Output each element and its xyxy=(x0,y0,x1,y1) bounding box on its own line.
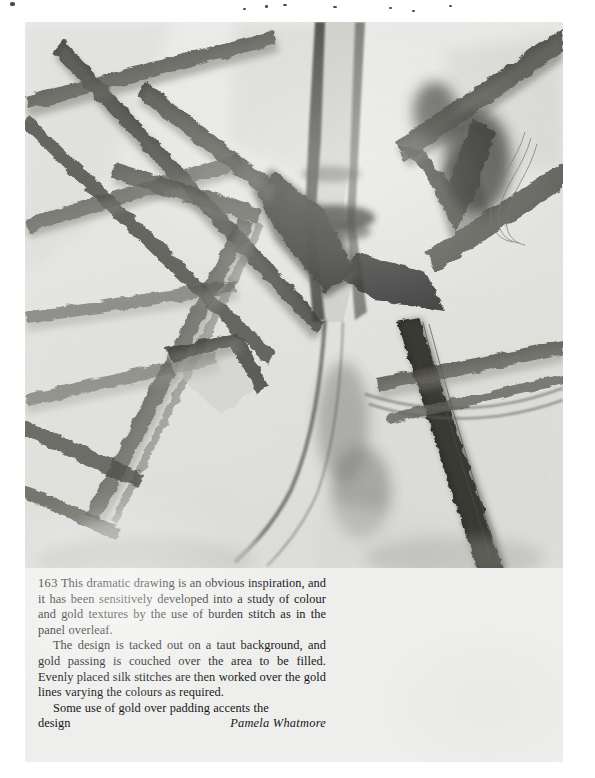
scan-dust-speck xyxy=(412,10,415,12)
scan-dust-speck xyxy=(265,5,268,8)
caption-paragraph-1-text: This dramatic drawing is an obvious insp… xyxy=(38,576,326,637)
scanned-book-page: 163 This dramatic drawing is an obvious … xyxy=(0,0,595,778)
scan-dust-speck xyxy=(243,8,246,10)
figure-caption: 163 This dramatic drawing is an obvious … xyxy=(38,576,326,732)
caption-paragraph-3: Some use of gold over padding accents th… xyxy=(38,701,326,717)
charcoal-drawing-svg xyxy=(25,22,563,568)
scan-dust-speck xyxy=(283,4,287,6)
caption-paragraph-2: The design is tacked out on a taut backg… xyxy=(38,638,326,700)
caption-last-line: design Pamela Whatmore xyxy=(38,716,326,732)
scan-dust-speck xyxy=(10,2,15,6)
scan-dust-speck xyxy=(333,6,337,8)
caption-attribution: Pamela Whatmore xyxy=(230,716,326,732)
caption-last-word: design xyxy=(38,716,70,732)
figure-number: 163 xyxy=(38,576,58,590)
page-sheet: 163 This dramatic drawing is an obvious … xyxy=(25,22,563,762)
figure-charcoal-drawing xyxy=(25,22,563,568)
scan-dust-speck xyxy=(389,7,392,9)
caption-paragraph-1: 163 This dramatic drawing is an obvious … xyxy=(38,576,326,638)
scan-dust-speck xyxy=(449,5,452,7)
